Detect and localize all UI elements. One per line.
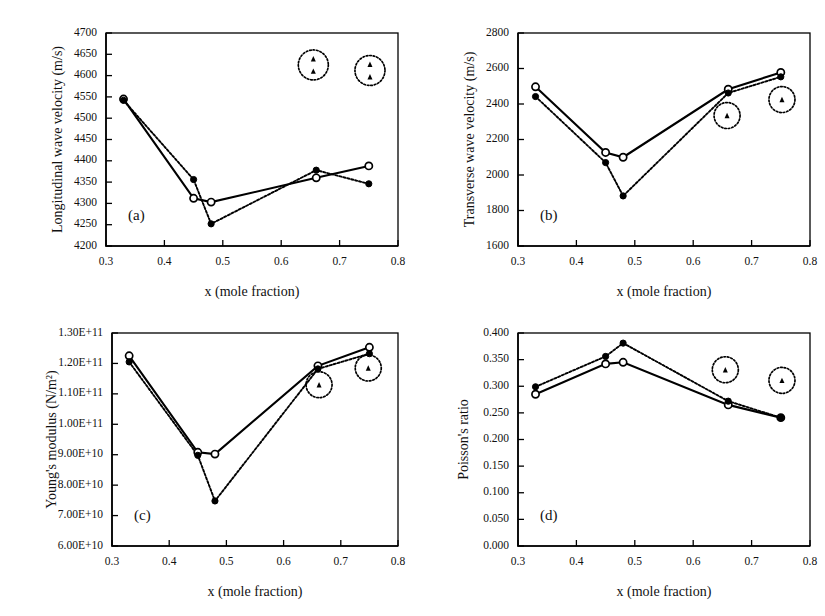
y-axis-tick-label: 4200 — [74, 239, 97, 251]
chart-panel-a: 4200425043004350440044504500455046004650… — [0, 0, 412, 308]
y-axis-tick-label: 0.100 — [483, 485, 509, 497]
annotation-triangle-icon — [779, 378, 784, 383]
series-line-dotted-filled-diamond — [536, 77, 781, 196]
data-point-filled-diamond — [120, 97, 126, 103]
y-axis-tick-label: 4400 — [74, 153, 97, 165]
x-axis-tick-label: 0.4 — [157, 255, 172, 267]
y-axis-tick-label: 4300 — [74, 196, 97, 208]
data-point-open-circle — [366, 344, 373, 351]
panel-d-svg: 0.0000.0500.1000.1500.2000.2500.3000.350… — [412, 308, 825, 616]
chart-panel-b: 16001800200022002400260028000.30.40.50.6… — [412, 0, 825, 308]
x-axis-tick-label: 0.7 — [744, 555, 759, 567]
x-axis-title: x (mole fraction) — [205, 284, 300, 300]
y-axis-tick-label: 1.00E+11 — [58, 417, 103, 429]
data-point-open-circle — [620, 154, 627, 161]
y-axis-tick-label: 0.200 — [483, 432, 509, 444]
data-point-filled-diamond — [208, 221, 214, 227]
data-point-filled-diamond — [195, 452, 201, 458]
x-axis-tick-label: 0.8 — [803, 555, 818, 567]
plot-frame — [106, 33, 398, 246]
x-axis-tick-label: 0.7 — [334, 555, 349, 567]
y-axis-title: Young's modulus (N/m²) — [44, 370, 60, 509]
x-axis-tick-label: 0.8 — [391, 555, 406, 567]
data-point-open-circle — [620, 359, 627, 366]
data-point-filled-diamond — [126, 359, 132, 365]
y-axis-tick-label: 2800 — [486, 26, 509, 38]
y-axis-tick-label: 7.00E+10 — [58, 508, 103, 520]
data-point-filled-diamond — [620, 340, 626, 346]
figure-container: 4200425043004350440044504500455046004650… — [0, 0, 825, 616]
x-axis-tick-label: 0.6 — [276, 555, 291, 567]
y-axis-tick-label: 1.10E+11 — [58, 386, 103, 398]
y-axis-tick-label: 1.30E+11 — [58, 326, 103, 338]
y-axis-tick-label: 2400 — [486, 97, 509, 109]
x-axis-tick-label: 0.3 — [105, 555, 120, 567]
y-axis-tick-label: 0.350 — [483, 352, 509, 364]
y-axis-tick-label: 9.00E+10 — [58, 447, 103, 459]
x-axis-tick-label: 0.5 — [219, 555, 234, 567]
chart-panel-c: 6.00E+107.00E+108.00E+109.00E+101.00E+11… — [0, 308, 412, 616]
x-axis-tick-label: 0.5 — [628, 255, 643, 267]
data-point-filled-diamond — [532, 93, 538, 99]
annotation-triangle-icon — [367, 74, 372, 79]
x-axis-tick-label: 0.6 — [274, 255, 289, 267]
annotation-triangle-icon — [725, 113, 730, 118]
x-axis-tick-label: 0.4 — [569, 255, 584, 267]
y-axis-tick-label: 0.300 — [483, 379, 509, 391]
y-axis-tick-label: 4650 — [74, 47, 97, 59]
data-point-filled-diamond — [725, 398, 731, 404]
data-point-open-circle — [602, 149, 609, 156]
y-axis-tick-label: 0.000 — [483, 539, 509, 551]
x-axis-tick-label: 0.5 — [216, 255, 231, 267]
x-axis-tick-label: 0.7 — [744, 255, 759, 267]
annotation-triangle-icon — [311, 68, 316, 73]
annotation-dotted-circle — [355, 55, 385, 85]
y-axis-tick-label: 2600 — [486, 61, 509, 73]
x-axis-title: x (mole fraction) — [617, 284, 712, 300]
panel-a-svg: 4200425043004350440044504500455046004650… — [0, 0, 412, 308]
data-point-filled-diamond — [778, 415, 784, 421]
data-point-open-circle — [190, 195, 197, 202]
data-point-open-circle — [602, 360, 609, 367]
data-point-open-circle — [208, 199, 215, 206]
y-axis-tick-label: 1600 — [486, 239, 509, 251]
panel-label: (b) — [540, 207, 558, 224]
series-line-dotted-filled-diamond — [124, 100, 369, 224]
y-axis-tick-label: 1800 — [486, 203, 509, 215]
data-point-filled-diamond — [603, 159, 609, 165]
y-axis-tick-label: 0.250 — [483, 406, 509, 418]
data-point-open-circle — [532, 83, 539, 90]
panel-label: (c) — [134, 507, 151, 524]
y-axis-tick-label: 0.150 — [483, 459, 509, 471]
y-axis-tick-label: 8.00E+10 — [58, 478, 103, 490]
x-axis-tick-label: 0.7 — [332, 255, 347, 267]
data-point-filled-diamond — [532, 384, 538, 390]
panel-label: (d) — [540, 507, 558, 524]
series-line-solid-open-circle — [124, 99, 369, 202]
annotation-triangle-icon — [779, 97, 784, 102]
x-axis-tick-label: 0.6 — [686, 555, 701, 567]
data-point-filled-diamond — [725, 90, 731, 96]
data-point-open-circle — [365, 162, 372, 169]
data-point-filled-diamond — [620, 193, 626, 199]
x-axis-title: x (mole fraction) — [617, 584, 712, 600]
x-axis-tick-label: 0.8 — [391, 255, 406, 267]
data-point-open-circle — [313, 174, 320, 181]
y-axis-title: Transverse wave velocity (m/s) — [462, 51, 478, 227]
data-point-filled-diamond — [212, 498, 218, 504]
chart-panel-d: 0.0000.0500.1000.1500.2000.2500.3000.350… — [412, 308, 825, 616]
series-line-dotted-filled-diamond — [536, 343, 781, 418]
y-axis-tick-label: 2200 — [486, 132, 509, 144]
y-axis-tick-label: 0.050 — [483, 512, 509, 524]
data-point-filled-diamond — [313, 167, 319, 173]
y-axis-tick-label: 4700 — [74, 26, 97, 38]
y-axis-tick-label: 4250 — [74, 217, 97, 229]
y-axis-tick-label: 0.400 — [483, 326, 509, 338]
x-axis-tick-label: 0.4 — [569, 555, 584, 567]
x-axis-title: x (mole fraction) — [208, 584, 303, 600]
y-axis-title: Poisson's ratio — [456, 399, 471, 480]
series-line-solid-open-circle — [129, 347, 369, 454]
y-axis-title: Longitudinal wave velocity (m/s) — [50, 46, 66, 233]
data-point-open-circle — [211, 451, 218, 458]
y-axis-tick-label: 4550 — [74, 90, 97, 102]
